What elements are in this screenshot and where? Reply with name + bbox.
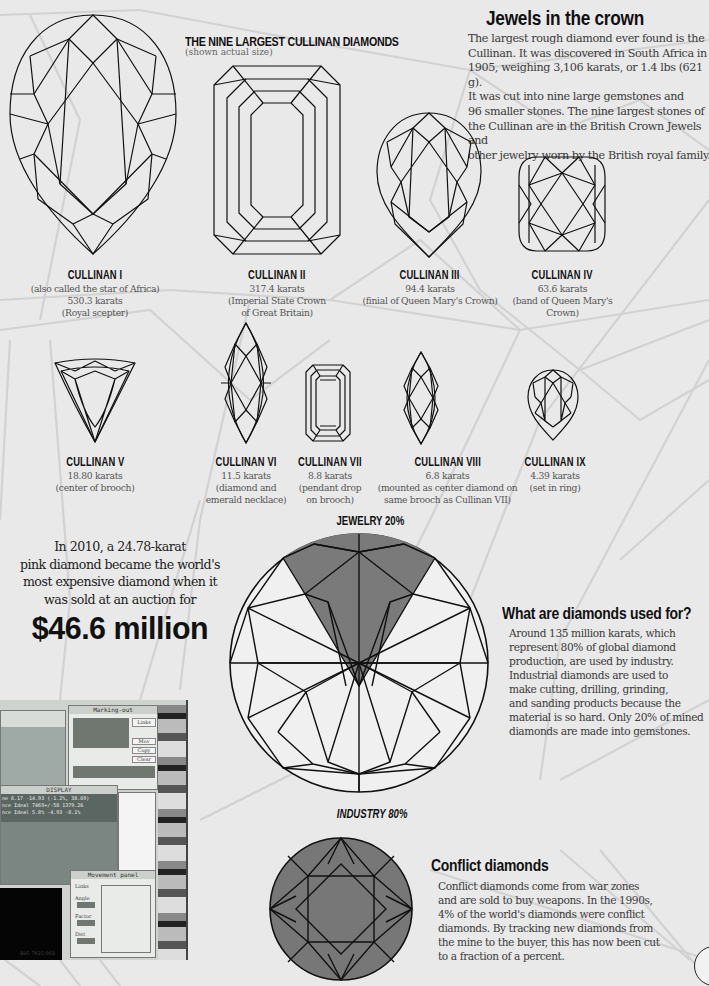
- diamond-karats: 530.3 karats: [20, 295, 170, 307]
- conflict-title: Conflict diamonds: [431, 856, 659, 876]
- label-cullinan-1: CULLINAN I (also called the star of Afri…: [20, 264, 170, 319]
- uses-line: and sanding products because the: [509, 696, 709, 710]
- diamond-name: CULLINAN IX: [524, 455, 585, 469]
- trillion-diamond-icon: [53, 357, 137, 443]
- diamond-name: CULLINAN VII: [298, 455, 362, 469]
- diamond-karats: 6.8 karats: [375, 470, 520, 482]
- diamond-karats: 63.6 karats: [500, 283, 625, 295]
- copy-button[interactable]: Copy: [132, 747, 156, 754]
- intro-section: Jewels in the crown: [486, 6, 709, 30]
- diamond-name: CULLINAN V: [66, 455, 124, 469]
- uses-line: represent 80% of global diamond: [509, 640, 709, 654]
- record-sale-callout: In 2010, a 24.78-karat pink diamond beca…: [10, 538, 230, 647]
- cullinan-section-title: THE NINE LARGEST CULLINAN DIAMONDS (show…: [185, 34, 446, 57]
- factor-input[interactable]: [77, 920, 95, 926]
- diamond-desc: (band of Queen Mary's Crown): [500, 295, 625, 319]
- conflict-line: diamonds. By tracking new diamonds from: [438, 921, 709, 935]
- label-cullinan-9: CULLINAN IX 4.39 karats (set in ring): [515, 451, 595, 494]
- conflict-line: Conflict diamonds come from war zones: [438, 879, 709, 893]
- emerald-diamond-icon: [213, 65, 341, 255]
- diamond-texture-strip: [158, 705, 188, 960]
- diamond-karats: 18.80 karats: [40, 470, 150, 482]
- pear-diamond-icon: [375, 112, 483, 258]
- links-checkbox[interactable]: Links: [132, 718, 156, 727]
- label-cullinan-4: CULLINAN IV 63.6 karats (band of Queen M…: [500, 264, 625, 319]
- label-cullinan-8: CULLINAN VIII 6.8 karats (mounted as cen…: [375, 451, 520, 506]
- diamond-desc: (center of brooch): [40, 482, 150, 494]
- jewelry-label: JEWELRY 20%: [336, 514, 404, 528]
- diamond-name: CULLINAN I: [68, 268, 123, 282]
- uses-line: make cutting, drilling, grinding,: [509, 682, 709, 696]
- window-title: Movement panel: [71, 871, 155, 879]
- conflict-body: Conflict diamonds come from war zones an…: [438, 879, 709, 963]
- emerald-diamond-icon: [305, 364, 351, 442]
- diamond-cullinan-4: [517, 155, 607, 253]
- diamond-karats: 8.8 karats: [285, 470, 375, 482]
- diamond-desc: same brooch as Cullinan VII): [375, 494, 520, 506]
- diamond-desc: (pendant drop: [285, 482, 375, 494]
- record-line: In 2010, a 24.78-karat: [10, 538, 230, 556]
- diamond-cullinan-8: [398, 351, 444, 445]
- marquise-diamond-icon: [217, 322, 275, 444]
- diamond-cullinan-5: [53, 357, 137, 443]
- diamond-desc: (Royal scepter): [20, 307, 170, 319]
- intro-line: The largest rough diamond ever found is …: [468, 32, 709, 47]
- label-cullinan-3: CULLINAN III 94.4 karats (finial of Quee…: [360, 264, 500, 307]
- diamond-desc: (finial of Queen Mary's Crown): [360, 295, 500, 307]
- record-amount: $46.6 million: [16, 610, 225, 647]
- diamond-name: CULLINAN II: [248, 268, 305, 282]
- diamond-name: CULLINAN III: [400, 268, 460, 282]
- cushion-diamond-icon: [517, 155, 607, 253]
- diamond-karats: 94.4 karats: [360, 283, 500, 295]
- links-checkbox-label[interactable]: Links: [75, 883, 89, 889]
- record-line: most expensive diamond when it: [10, 573, 230, 591]
- conflict-section: Conflict diamonds: [431, 856, 709, 876]
- mov-button[interactable]: Mov: [132, 738, 156, 745]
- record-line: pink diamond became the world's: [10, 556, 230, 574]
- marking-out-window: Marking-out Links Mov Copy Clear: [68, 705, 158, 790]
- diamond-cullinan-6: [217, 322, 275, 444]
- record-line: was sold at an auction for: [10, 591, 230, 609]
- uses-line: material is so hard. Only 20% of mined: [509, 710, 709, 724]
- diamond-cullinan-9: [527, 369, 579, 441]
- dist-input[interactable]: [77, 938, 95, 944]
- diamond-desc: on brooch): [285, 494, 375, 506]
- intro-body: The largest rough diamond ever found is …: [468, 32, 709, 163]
- movement-panel-window: Movement panel Links Angle Factor Dist: [70, 870, 156, 958]
- uses-line: diamonds are made into gemstones.: [509, 724, 709, 738]
- conflict-line: the mine to the buyer, this has now been…: [438, 935, 709, 949]
- intro-line: 1905, weighing 3,106 karats, or 1.4 lbs …: [468, 61, 709, 90]
- diamond-pie-chart: [228, 532, 490, 794]
- pear-diamond-icon: [527, 369, 579, 441]
- clear-button[interactable]: Clear: [132, 756, 156, 763]
- factor-label: Factor: [75, 913, 91, 919]
- angle-label: Angle: [75, 895, 90, 901]
- angle-input[interactable]: [77, 902, 95, 908]
- intro-line: 96 smaller stones. The nine largest ston…: [468, 105, 709, 120]
- uses-line: Around 135 million karats, which: [509, 626, 709, 640]
- diamond-desc: (set in ring): [515, 482, 595, 494]
- uses-title: What are diamonds used for?: [502, 604, 672, 624]
- conflict-line: and are sold to buy weapons. In the 1990…: [438, 893, 709, 907]
- label-cullinan-5: CULLINAN V 18.80 karats (center of brooc…: [40, 451, 150, 494]
- diamond-desc: (Imperial State Crown: [212, 295, 342, 307]
- diamond-cullinan-2: [213, 65, 341, 255]
- diamond-cullinan-1: [8, 14, 178, 256]
- diamond-name: CULLINAN VIII: [414, 455, 481, 469]
- intro-line: It was cut into nine large gemstones and: [468, 90, 709, 105]
- conflict-diamond-graphic: [268, 836, 414, 982]
- conflict-line: 4% of the world's diamonds were conflict: [438, 907, 709, 921]
- uses-line: production, are used by industry.: [509, 654, 709, 668]
- diamond-karats: 4.39 karats: [515, 470, 595, 482]
- diamond-cullinan-7: [305, 364, 351, 442]
- label-cullinan-2: CULLINAN II 317.4 karats (Imperial State…: [212, 264, 342, 319]
- diamond-software-photo: Marking-out Links Mov Copy Clear DISPLAY…: [0, 700, 188, 960]
- status-text: 895 7425.003: [20, 950, 55, 956]
- uses-body: Around 135 million karats, which represe…: [509, 626, 709, 738]
- intro-line: the Cullinan are in the British Crown Je…: [468, 120, 709, 149]
- section-title: THE NINE LARGEST CULLINAN DIAMONDS: [185, 34, 399, 49]
- diamond-name: CULLINAN IV: [532, 268, 593, 282]
- window-title: Marking-out: [69, 706, 157, 714]
- diamond-desc: (also called the star of Africa): [20, 283, 170, 295]
- list-window: [118, 792, 156, 872]
